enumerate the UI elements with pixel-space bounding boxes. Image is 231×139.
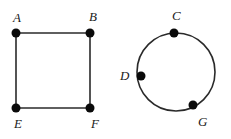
vertex-f <box>86 104 95 113</box>
vertex-label-a: A <box>12 10 21 25</box>
vertex-label-b: B <box>89 9 97 24</box>
vertex-a <box>12 29 21 38</box>
vertex-label-e: E <box>13 116 22 131</box>
square-graph: ABEF <box>12 9 101 131</box>
vertex-label-c: C <box>172 8 181 23</box>
vertex-label-g: G <box>198 114 208 129</box>
vertex-e <box>12 104 21 113</box>
vertex-b <box>86 29 95 38</box>
circle-graph: CDG <box>119 8 215 129</box>
vertex-label-f: F <box>90 116 100 131</box>
graph-diagram: ABEF CDG <box>0 0 231 139</box>
vertex-d <box>137 72 146 81</box>
vertex-g <box>189 101 198 110</box>
vertex-label-d: D <box>119 68 130 83</box>
circle-edge <box>137 33 215 111</box>
vertex-c <box>170 29 179 38</box>
